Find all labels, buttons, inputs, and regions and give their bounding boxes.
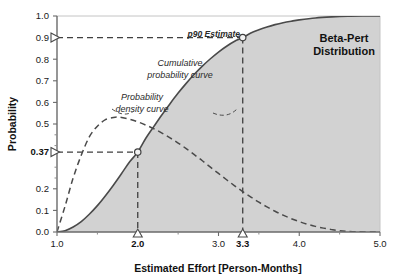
x-tick-label: 1.0 xyxy=(50,238,63,249)
y-tick-label: 0.6 xyxy=(36,97,49,108)
y-tick-label: 0.5 xyxy=(36,118,49,129)
y-tick-label: 0.1 xyxy=(36,205,49,216)
x-tick-label: 2.0 xyxy=(131,238,144,249)
y-tick-label: 0.7 xyxy=(36,75,49,86)
y-tick-label: 0.9 xyxy=(36,32,49,43)
p90-estimate-annotation: p90 Estimate xyxy=(187,29,241,39)
chart-title-line1: Beta-Pert xyxy=(320,32,369,44)
x-tick-label: 3.0 xyxy=(212,238,225,249)
y-axis-ticks: 1.00.90.80.70.60.50.370.20.10.0 xyxy=(31,10,58,237)
x-axis-title: Estimated Effort [Person-Months] xyxy=(134,262,301,274)
y-tick-label: 0.2 xyxy=(36,183,49,194)
x-axis-ticks: 1.02.03.03.34.05.0 xyxy=(50,232,386,249)
x-tick-label: 4.0 xyxy=(293,238,306,249)
p37-point xyxy=(135,149,141,155)
x-tick-label: 5.0 xyxy=(373,238,386,249)
cumulative-curve-annotation-line2: probability curve xyxy=(146,70,213,80)
y-axis-title: Probability xyxy=(6,97,18,151)
p90-point xyxy=(240,34,246,40)
cumulative-curve-annotation-line1: Cumulative xyxy=(157,58,202,68)
y-tick-label: 1.0 xyxy=(36,10,49,21)
y-tick-label: 0.8 xyxy=(36,54,49,65)
y-tick-label: 0.0 xyxy=(36,226,49,237)
x-tick-label: 3.3 xyxy=(236,238,249,249)
beta-pert-distribution-chart: 1.00.90.80.70.60.50.370.20.10.0 1.02.03.… xyxy=(0,0,402,278)
density-curve-annotation-line1: Probability xyxy=(121,92,164,102)
density-curve-annotation-line2: density curve xyxy=(115,104,168,114)
y-tick-label: 0.37 xyxy=(31,146,50,157)
chart-title-line2: Distribution xyxy=(313,45,375,57)
chart-figure: 1.00.90.80.70.60.50.370.20.10.0 1.02.03.… xyxy=(0,0,402,278)
